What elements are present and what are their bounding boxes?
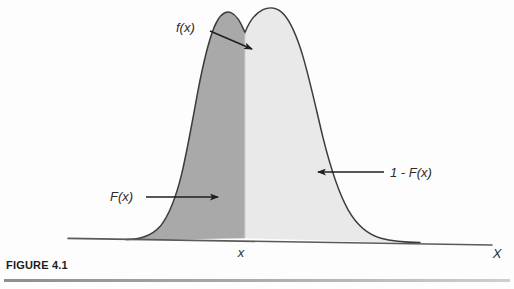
caption-divider-rule: [4, 279, 510, 282]
area-left-cdf: [126, 12, 245, 240]
cdf-label: F(x): [110, 189, 133, 204]
figure-caption: FIGURE 4.1: [6, 259, 68, 271]
figure-page: f(x) F(x) 1 - F(x) x X FIGURE 4.1: [0, 0, 514, 289]
distribution-figure: f(x) F(x) 1 - F(x) x X: [0, 0, 514, 289]
area-right-survival: [245, 8, 420, 243]
survival-label: 1 - F(x): [390, 165, 432, 180]
density-label: f(x): [176, 20, 195, 35]
x-axis-line: [68, 238, 492, 245]
figure-caption-bar: FIGURE 4.1: [0, 255, 514, 289]
